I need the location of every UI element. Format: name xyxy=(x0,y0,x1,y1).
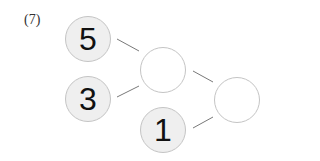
number-node-5: 5 xyxy=(65,16,111,62)
connector-middle-to-right xyxy=(193,71,213,82)
connector-5-to-middle xyxy=(117,39,139,51)
node-value: 5 xyxy=(79,23,97,55)
connector-1-to-right xyxy=(193,117,213,128)
node-value: 1 xyxy=(154,114,172,146)
number-node-1: 1 xyxy=(140,107,186,153)
answer-node-right[interactable] xyxy=(214,77,260,123)
connector-3-to-middle xyxy=(117,86,139,97)
number-node-3: 3 xyxy=(65,76,111,122)
answer-node-middle[interactable] xyxy=(140,47,186,93)
node-value: 3 xyxy=(79,83,97,115)
